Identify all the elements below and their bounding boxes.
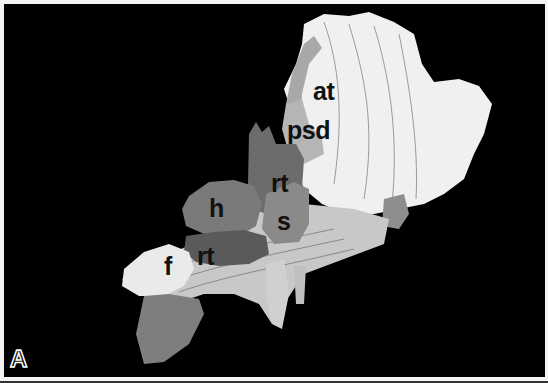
- label-f: f: [164, 254, 172, 279]
- label-h: h: [209, 196, 224, 221]
- label-at: at: [313, 79, 334, 104]
- label-s: s: [277, 209, 290, 234]
- label-rt-lower: rt: [197, 244, 214, 269]
- label-rt-upper: rt: [271, 171, 288, 196]
- region-strand-2: [294, 266, 306, 304]
- label-psd: psd: [287, 118, 330, 143]
- region-bottom-wedge: [136, 294, 204, 364]
- panel-label: A: [10, 347, 27, 371]
- reconstruction-figure: at psd rt s h rt f A: [4, 4, 545, 377]
